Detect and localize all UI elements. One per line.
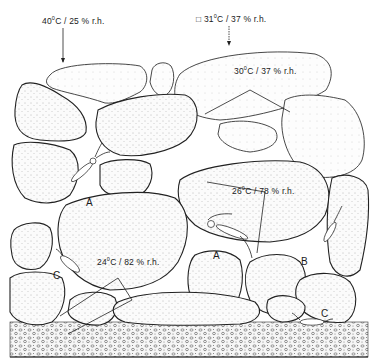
stone-bottom-center-left <box>68 292 117 325</box>
label-26c-78rh: 260C / 78 % r.h. <box>232 185 295 196</box>
stone-left-mid <box>12 142 78 203</box>
stone-center-small <box>100 160 152 198</box>
stone-small-top <box>150 63 174 96</box>
specimen-label-b: B <box>301 256 308 267</box>
specimen-label-a-upper: A <box>86 197 93 208</box>
stone-bottom-center <box>113 292 259 325</box>
stone-mid-small <box>218 121 277 152</box>
stone-bottom-right-small <box>267 296 305 322</box>
label-31c-37rh: □ 310C / 37 % r.h. <box>196 13 266 24</box>
label-40c-25rh: 400C / 25 % r.h. <box>42 15 105 26</box>
soil-layer <box>10 322 368 357</box>
stone-center-upper <box>96 94 197 156</box>
label-24c-82rh: 240C / 82 % r.h. <box>97 256 160 267</box>
label-30c-37rh: 300C / 37 % r.h. <box>234 65 297 76</box>
stone-lower-large <box>58 192 187 290</box>
stone-middle-right-large <box>178 161 329 242</box>
stones <box>10 52 369 325</box>
specimen-label-c-bottom: C <box>321 308 328 319</box>
specimen-label-a-middle: A <box>213 250 220 261</box>
specimen-label-c-left: C <box>53 270 60 281</box>
square-marker-icon: □ <box>196 14 201 24</box>
stone-left-lower <box>11 223 53 270</box>
